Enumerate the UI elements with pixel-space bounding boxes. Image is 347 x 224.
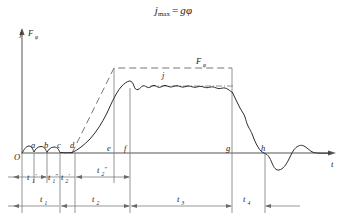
dimension-row-lower: t 1 t 2 t 3 t 4 <box>8 194 300 208</box>
interval-label-t1-base: t <box>40 194 43 204</box>
braking-diagram: j F φ O t F φ j a b c d e <box>0 0 347 224</box>
dim-arrow-left-t4 <box>265 204 271 208</box>
deceleration-curve-j <box>22 81 330 170</box>
interval-label-t3-sub: 3 <box>181 200 185 206</box>
point-label-h: h <box>261 143 265 153</box>
interval-label-t2-dprime-base: t <box>97 165 100 175</box>
point-label-a: a <box>31 140 35 150</box>
x-axis-label-t: t <box>331 159 334 169</box>
dimension-row-upper: t 1 ′ t 1 ″ t 2 ′ t 2 ″ <box>8 165 130 184</box>
j-decay-undershoot-rebound <box>233 93 331 171</box>
origin-label: O <box>14 152 20 162</box>
dim-arrow-right-t2 <box>124 204 130 208</box>
fphi-curve-label-subscript: φ <box>203 62 206 68</box>
interval-label-t4-sub: 4 <box>248 200 251 206</box>
dim-arrow-left-t2 <box>61 204 67 208</box>
interval-label-t4-base: t <box>243 194 246 204</box>
dim-arrow-left-t1 <box>13 204 19 208</box>
point-label-f: f <box>124 143 128 153</box>
interval-label-t1-dprime-mark: ″ <box>56 172 59 179</box>
y-axis-label-F: F <box>27 28 34 38</box>
interval-label-t1-prime-mark: ′ <box>36 172 38 179</box>
dim-arrow-right-t1-prime <box>41 175 47 179</box>
interval-label-t2-dprime-mark: ″ <box>105 165 108 172</box>
y-axis-label-F-subscript: φ <box>35 34 38 40</box>
point-drop-lines <box>22 153 265 213</box>
interval-label-t2-base: t <box>92 194 95 204</box>
dim-arrow-left-t3 <box>131 204 137 208</box>
dim-arrow-left-t1-prime <box>13 175 19 179</box>
interval-label-t2-prime-mark: ′ <box>69 172 71 179</box>
dim-arrow-right-t2-dprime <box>124 175 130 179</box>
force-curve-fphi <box>72 68 232 153</box>
axis-group <box>19 28 336 156</box>
j-rise-and-plateau <box>72 81 233 153</box>
dim-arrow-left-t2-dprime <box>76 175 82 179</box>
j-curve-label: j <box>161 70 165 80</box>
point-labels: a b c d e f g h <box>31 140 265 153</box>
point-label-e: e <box>107 143 111 153</box>
interval-label-t1-sub: 1 <box>45 200 48 206</box>
dim-arrow-right-t3 <box>226 204 232 208</box>
point-label-b: b <box>44 140 48 150</box>
fphi-dashed-path <box>72 68 232 153</box>
point-label-c: c <box>57 140 61 150</box>
point-label-g: g <box>226 143 230 153</box>
interval-label-t3-base: t <box>177 194 180 204</box>
interval-label-t2-sub: 2 <box>97 200 100 206</box>
fphi-curve-label: F <box>195 56 202 66</box>
